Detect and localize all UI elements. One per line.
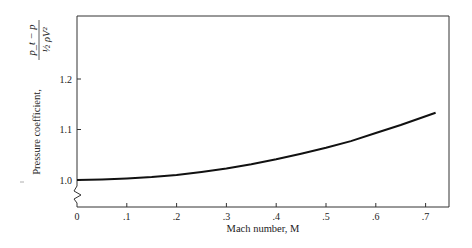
x-tick-label: 0 xyxy=(75,211,80,222)
x-tick-label: .5 xyxy=(322,211,330,222)
chart: 0.1.2.3.4.5.6.7 1.01.11.2 Mach number, M… xyxy=(0,0,472,248)
cp-curve xyxy=(77,113,436,180)
x-tick-label: .4 xyxy=(272,211,280,222)
y-axis-ticks: 1.01.11.2 xyxy=(60,74,82,186)
x-tick-label: .7 xyxy=(422,211,430,222)
y-tick-label: 1.2 xyxy=(60,74,73,85)
x-axis-ticks: 0.1.2.3.4.5.6.7 xyxy=(75,203,430,222)
y-tick-label: 1.1 xyxy=(60,124,73,135)
x-axis-label: Mach number, M xyxy=(227,223,300,234)
y-axis-label: Pressure coefficient, p_t − p ½ ρV² xyxy=(26,20,52,175)
fraction-denominator: ½ ρV² xyxy=(41,27,52,53)
y-axis-label-text: Pressure coefficient, xyxy=(31,89,42,175)
x-tick-label: .3 xyxy=(223,211,231,222)
x-tick-label: .6 xyxy=(372,211,380,222)
y-axis-fraction: p_t − p ½ ρV² xyxy=(26,20,52,60)
y-tick-label: 1.0 xyxy=(60,175,73,186)
x-tick-label: .2 xyxy=(173,211,181,222)
x-tick-label: .1 xyxy=(123,211,131,222)
fraction-numerator: p_t − p xyxy=(26,24,37,56)
